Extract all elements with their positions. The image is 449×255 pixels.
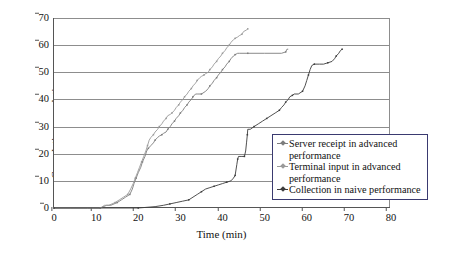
legend-label: Server receipt in advanced performance — [289, 138, 397, 161]
series-marker — [147, 145, 149, 147]
series-marker — [203, 74, 205, 76]
series-marker — [209, 85, 211, 87]
y-tick-mark — [40, 203, 44, 204]
series-marker — [196, 80, 198, 82]
series-marker — [241, 34, 243, 36]
legend-marker-icon — [276, 161, 289, 173]
legend-label: Terminal input in advanced performance — [289, 161, 401, 184]
series-marker — [228, 44, 230, 46]
legend-marker-icon — [276, 184, 289, 196]
chart-legend: Server receipt in advanced performanceTe… — [272, 134, 428, 200]
series-marker — [234, 38, 236, 40]
series-marker — [201, 93, 203, 95]
series-marker — [285, 101, 287, 103]
x-tick-label: 60 — [302, 207, 313, 224]
series-marker — [209, 69, 211, 71]
series-line — [54, 29, 248, 208]
x-tick-label: 20 — [133, 207, 144, 224]
series-line — [54, 49, 288, 208]
x-tick-label: 10 — [91, 207, 102, 224]
y-tick-mark — [35, 40, 39, 41]
series-marker — [222, 69, 224, 71]
x-tick-label: 50 — [259, 207, 270, 224]
series-marker — [341, 48, 343, 50]
series-marker — [53, 207, 55, 209]
series-marker — [191, 88, 193, 90]
y-tick-mark — [35, 67, 39, 68]
y-tick-label: 30 — [39, 121, 55, 132]
series-marker — [279, 110, 281, 112]
series-marker — [228, 61, 230, 63]
series-marker — [129, 194, 131, 196]
series-marker — [141, 161, 143, 163]
series-marker — [161, 134, 163, 136]
x-tick-label: 40 — [217, 207, 228, 224]
chart-figure: Cumulative population Time (min) 0102030… — [0, 0, 449, 255]
y-tick-label: 50 — [39, 67, 55, 78]
series-marker — [247, 28, 249, 30]
legend-entry-1[interactable]: Server receipt in advanced performance — [276, 138, 423, 161]
series-marker — [244, 156, 246, 158]
series-marker — [266, 118, 268, 120]
series-marker — [234, 54, 236, 56]
series-marker — [178, 104, 180, 106]
y-tick-label: 60 — [39, 40, 55, 51]
series-marker — [192, 96, 194, 98]
series-marker — [308, 74, 310, 76]
series-marker — [222, 53, 224, 55]
series-marker — [127, 194, 129, 196]
series-marker — [165, 118, 167, 120]
series-marker — [335, 55, 337, 57]
series-marker — [213, 186, 215, 188]
series-2 — [53, 28, 248, 209]
y-tick-label: 40 — [39, 94, 55, 105]
series-marker — [186, 104, 188, 106]
series-marker — [247, 53, 249, 55]
series-marker — [226, 181, 228, 183]
y-tick-mark — [35, 121, 39, 122]
y-tick-mark — [35, 94, 39, 95]
series-marker — [247, 134, 249, 136]
y-tick-label: 10 — [39, 176, 55, 187]
series-marker — [327, 62, 329, 64]
series-marker — [216, 77, 218, 79]
series-marker — [234, 175, 236, 177]
series-marker — [148, 148, 150, 150]
y-tick-label: 20 — [39, 148, 55, 159]
x-tick-mark — [51, 207, 52, 211]
series-1 — [53, 49, 288, 209]
legend-entry-2[interactable]: Terminal input in advanced performance — [276, 161, 423, 184]
series-marker — [114, 202, 116, 204]
series-marker — [201, 191, 203, 193]
series-marker — [188, 199, 190, 201]
series-marker — [216, 61, 218, 63]
x-tick-label: 80 — [386, 207, 397, 224]
legend-marker-icon — [276, 138, 289, 150]
series-marker — [159, 126, 161, 128]
series-marker — [184, 96, 186, 98]
series-marker — [138, 207, 140, 209]
x-tick-label: 0 — [51, 207, 56, 224]
legend-label: Collection in naive performance — [289, 184, 421, 196]
series-marker — [167, 129, 169, 131]
series-marker — [153, 134, 155, 136]
series-marker — [285, 51, 287, 53]
y-tick-mark — [35, 176, 39, 177]
series-marker — [237, 158, 239, 160]
series-marker — [180, 112, 182, 114]
series-marker — [171, 112, 173, 114]
x-tick-label: 30 — [175, 207, 186, 224]
series-marker — [174, 120, 176, 122]
legend-entry-3[interactable]: Collection in naive performance — [276, 184, 423, 196]
series-marker — [169, 203, 171, 205]
y-tick-label: 70 — [39, 13, 55, 24]
x-tick-label: 70 — [344, 207, 355, 224]
x-axis-label: Time (min) — [53, 228, 390, 240]
y-tick-mark — [35, 148, 39, 149]
series-marker — [302, 91, 304, 93]
y-tick-mark — [35, 13, 39, 14]
series-marker — [135, 177, 137, 179]
series-marker — [154, 139, 156, 141]
series-marker — [292, 95, 294, 97]
series-marker — [253, 126, 255, 128]
